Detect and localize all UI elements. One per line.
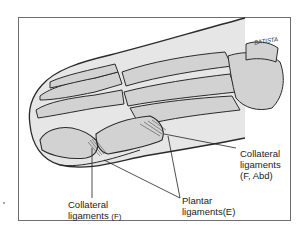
foot-illustration bbox=[0, 0, 306, 239]
stray-mark bbox=[3, 202, 5, 204]
label-collateral-ligaments-f: Collateral ligaments (F) bbox=[68, 199, 122, 222]
label-plantar-ligaments-e: Plantar ligaments(E) bbox=[182, 195, 235, 217]
label-collateral-ligaments-f-abd: Collateral ligaments (F, Abd) bbox=[240, 148, 281, 181]
